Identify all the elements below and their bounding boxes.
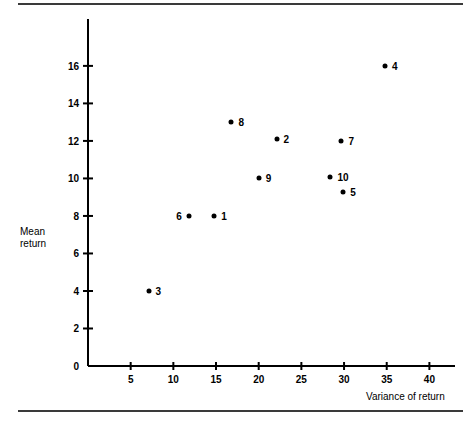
x-tick-label: 25: [289, 374, 313, 385]
data-point-label: 2: [284, 134, 290, 145]
x-tick-label: 40: [417, 374, 441, 385]
y-tick-label: 4: [57, 285, 79, 296]
data-point-marker: [186, 213, 191, 218]
data-point-marker: [146, 288, 151, 293]
x-tick-label: 10: [161, 374, 185, 385]
y-axis-title: Mean return: [20, 226, 80, 249]
data-point-marker: [229, 120, 234, 125]
y-tick-label: 14: [57, 98, 79, 109]
data-point-marker: [212, 213, 217, 218]
y-tick-label: 0: [57, 361, 79, 372]
y-tick-label: 10: [57, 173, 79, 184]
axes-lines: [88, 19, 455, 366]
y-tick-label: 12: [57, 135, 79, 146]
data-point-marker: [339, 138, 344, 143]
data-point-marker: [383, 63, 388, 68]
data-point-label: 4: [392, 60, 398, 71]
data-point-marker: [328, 174, 333, 179]
data-point-marker: [274, 137, 279, 142]
data-point-label: 9: [266, 173, 272, 184]
x-tick-label: 30: [332, 374, 356, 385]
data-point-label: 1: [221, 210, 227, 221]
y-tick-label: 2: [57, 323, 79, 334]
data-point-label: 5: [350, 186, 356, 197]
data-point-label: 10: [337, 171, 348, 182]
x-tick-label: 15: [204, 374, 228, 385]
data-point-marker: [256, 176, 261, 181]
y-tick-label: 16: [57, 60, 79, 71]
data-point-marker: [341, 189, 346, 194]
data-point-label: 6: [176, 210, 182, 221]
y-tick-label: 8: [57, 210, 79, 221]
x-tick-label: 20: [247, 374, 271, 385]
y-tick-label: 6: [57, 248, 79, 259]
scatter-plot-figure: 0246810121416 510152025303540 1234567891…: [0, 0, 473, 424]
x-tick-label: 35: [375, 374, 399, 385]
data-point-label: 3: [156, 285, 162, 296]
x-tick-label: 5: [119, 374, 143, 385]
data-point-label: 8: [238, 117, 244, 128]
x-axis-title: Variance of return: [366, 391, 473, 403]
data-point-label: 7: [348, 135, 354, 146]
